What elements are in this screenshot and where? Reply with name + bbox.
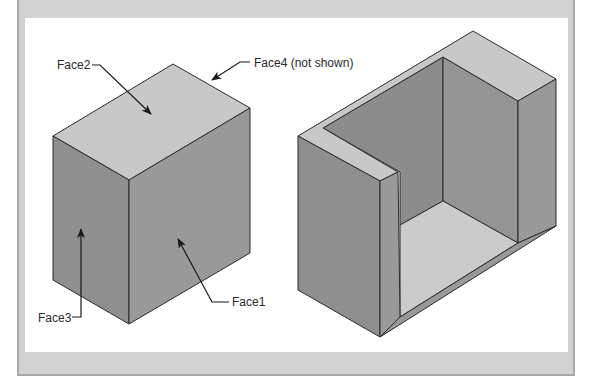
face4-leader [212,62,250,80]
label-face4: Face4 (not shown) [254,56,353,70]
label-face2: Face2 [57,58,91,72]
notched-part [298,31,556,337]
label-face1: Face1 [232,295,266,309]
solid-block [53,64,250,324]
figure-drawing: Face2 Face4 (not shown) Face3 Face1 [0,0,594,389]
right-outer-wall [518,79,556,243]
left-wall-front-edge [380,172,400,337]
label-face3: Face3 [38,311,72,325]
